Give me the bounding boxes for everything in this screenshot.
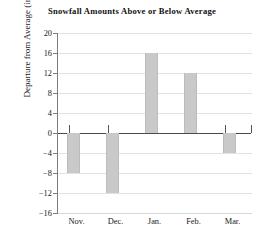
y-axis-tick-label: 12 xyxy=(44,69,52,78)
y-axis-tick xyxy=(53,173,58,174)
gridline xyxy=(57,153,252,154)
gridline xyxy=(57,33,252,34)
chart-title: Snowfall Amounts Above or Below Average xyxy=(0,6,264,16)
y-axis-tick xyxy=(53,73,58,74)
x-axis-tick xyxy=(69,125,70,133)
y-axis-tick-label: −8 xyxy=(43,169,52,178)
y-axis-tick-label: 20 xyxy=(44,29,52,38)
y-axis-tick xyxy=(53,153,58,154)
x-axis-end-tick xyxy=(251,125,252,133)
y-axis-tick-label: 16 xyxy=(44,49,52,58)
y-axis-tick xyxy=(53,113,58,114)
x-axis-tick-label: Feb. xyxy=(186,217,201,226)
x-axis-tick xyxy=(225,125,226,133)
gridline xyxy=(57,193,252,194)
y-axis-tick-label: −16 xyxy=(39,209,52,218)
x-axis-tick xyxy=(108,125,109,133)
bar-jan xyxy=(145,53,158,133)
plot-area: 201612840−4−8−12−16Nov.Dec.Jan.Feb.Mar. xyxy=(57,33,252,213)
x-axis-tick-label: Dec. xyxy=(108,217,124,226)
y-axis-tick xyxy=(53,193,58,194)
x-axis-tick-label: Mar. xyxy=(225,217,241,226)
x-axis-tick-label: Jan. xyxy=(148,217,161,226)
chart-figure: Snowfall Amounts Above or Below Average … xyxy=(0,0,264,242)
y-axis-tick-label: 0 xyxy=(48,129,52,138)
bar-feb xyxy=(184,73,197,133)
y-axis-tick xyxy=(53,53,58,54)
zero-axis-line xyxy=(57,133,251,134)
x-axis-tick-label: Nov. xyxy=(69,217,85,226)
bar-nov xyxy=(67,133,80,173)
y-axis-line xyxy=(57,33,58,213)
y-axis-tick xyxy=(53,33,58,34)
bar-dec xyxy=(106,133,119,193)
gridline xyxy=(57,173,252,174)
y-axis-tick-label: 8 xyxy=(48,89,52,98)
y-axis-tick-label: 4 xyxy=(48,109,52,118)
y-axis-tick xyxy=(53,133,58,134)
y-axis-tick-label: −12 xyxy=(39,189,52,198)
y-axis-tick-label: −4 xyxy=(43,149,52,158)
y-axis-tick xyxy=(53,93,58,94)
gridline xyxy=(57,213,252,214)
y-axis-tick xyxy=(53,213,58,214)
y-axis-label: Departure from Average (in.) xyxy=(22,0,32,130)
bar-mar xyxy=(223,133,236,153)
